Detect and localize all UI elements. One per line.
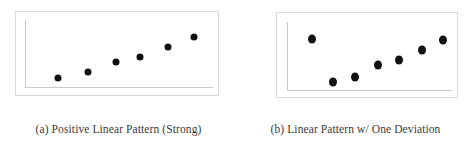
y-axis-line-a	[25, 20, 26, 87]
plot-area-a	[16, 12, 218, 95]
data-point	[190, 33, 197, 40]
data-point	[374, 60, 382, 69]
data-point	[136, 53, 143, 60]
data-point	[395, 55, 403, 64]
panel-caption-b: (b) Linear Pattern w/ One Deviation	[237, 122, 474, 136]
data-point	[55, 74, 62, 81]
data-point	[164, 43, 171, 50]
figure-root: (a) Positive Linear Pattern (Strong) (b)…	[0, 0, 474, 151]
data-point	[85, 68, 92, 75]
data-point	[308, 35, 316, 44]
data-point	[439, 35, 447, 44]
data-point	[112, 58, 119, 65]
scatter-plot-a	[15, 11, 219, 96]
y-axis-line-b	[287, 22, 288, 90]
panel-caption-a: (a) Positive Linear Pattern (Strong)	[0, 122, 237, 136]
data-point	[351, 73, 359, 82]
x-axis-line-b	[287, 90, 452, 91]
scatter-plot-b	[276, 12, 458, 98]
plot-area-b	[277, 13, 457, 97]
data-point	[418, 46, 426, 55]
figure-panel-a: (a) Positive Linear Pattern (Strong)	[0, 0, 237, 151]
x-axis-line-a	[25, 87, 213, 88]
data-point	[329, 77, 337, 86]
figure-panel-b: (b) Linear Pattern w/ One Deviation	[237, 0, 474, 151]
